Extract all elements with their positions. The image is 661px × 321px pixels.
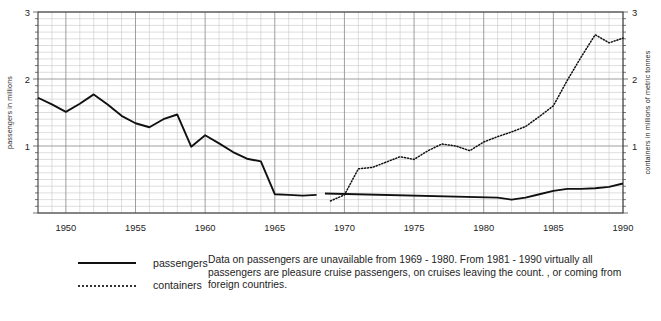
legend-swatch-solid-icon (78, 258, 136, 268)
y-tick-label: 1 (25, 141, 30, 152)
x-tick-label: 1985 (543, 222, 564, 233)
left-axis-title: passengers in millions (5, 76, 14, 149)
series-line-containers-2 (331, 35, 624, 201)
legend-item-containers: containers (78, 274, 198, 296)
chart-annotation-note: Data on passengers are unavailable from … (208, 254, 632, 292)
line-chart: 1231231950195519601965197019751980198519… (0, 0, 661, 240)
chart-page: 1231231950195519601965197019751980198519… (0, 0, 661, 321)
x-tick-label: 1990 (613, 222, 634, 233)
legend-label-containers: containers (153, 279, 202, 291)
x-tick-label: 1955 (125, 222, 146, 233)
chart-legend: passengers containers (78, 252, 198, 296)
x-tick-label: 1960 (195, 222, 216, 233)
right-axis-title: containers in millions of metric tonnes (643, 50, 652, 174)
y-tick-label: 3 (25, 7, 30, 18)
x-tick-label: 1950 (55, 222, 76, 233)
x-tick-label: 1965 (264, 222, 285, 233)
chart-area: 1231231950195519601965197019751980198519… (0, 0, 661, 240)
y2-tick-label: 1 (632, 141, 637, 152)
legend-swatch-dotted-icon (78, 280, 136, 290)
legend-item-passengers: passengers (78, 252, 198, 274)
y2-tick-label: 2 (632, 74, 637, 85)
x-tick-label: 1975 (404, 222, 425, 233)
y2-tick-label: 3 (632, 7, 637, 18)
x-tick-label: 1980 (473, 222, 494, 233)
y-tick-label: 2 (25, 74, 30, 85)
x-tick-label: 1970 (334, 222, 355, 233)
legend-label-passengers: passengers (153, 257, 208, 269)
